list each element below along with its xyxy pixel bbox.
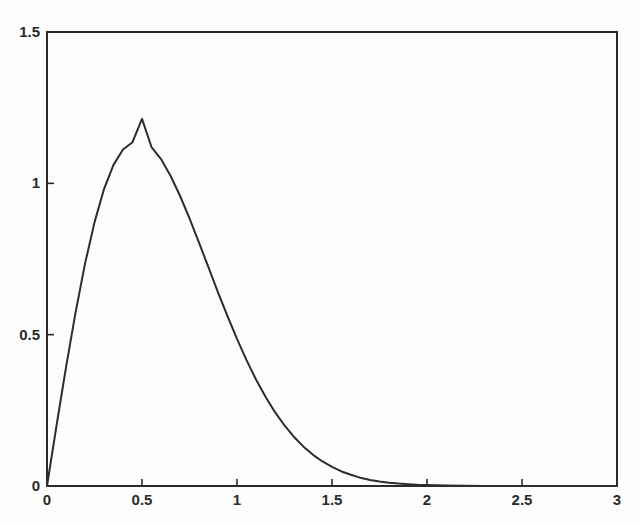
y-tick-label: 0.5: [19, 326, 40, 343]
y-tick-label: 0: [32, 477, 40, 494]
tick-marks: [47, 183, 522, 486]
axes-box: [47, 32, 617, 486]
x-axis-tick-labels: 00.511.522.53: [43, 491, 621, 508]
figure-canvas: 00.511.522.53 00.511.5: [0, 0, 640, 524]
y-tick-label: 1: [32, 174, 40, 191]
line-chart: 00.511.522.53 00.511.5: [0, 0, 640, 524]
y-axis-tick-labels: 00.511.5: [19, 23, 40, 494]
x-tick-label: 0.5: [132, 491, 153, 508]
x-tick-label: 2: [423, 491, 431, 508]
data-curve-rayleigh: [47, 119, 617, 486]
x-tick-label: 0: [43, 491, 51, 508]
x-tick-label: 1: [233, 491, 241, 508]
x-tick-label: 3: [613, 491, 621, 508]
x-tick-label: 1.5: [322, 491, 343, 508]
x-tick-label: 2.5: [512, 491, 533, 508]
y-tick-label: 1.5: [19, 23, 40, 40]
